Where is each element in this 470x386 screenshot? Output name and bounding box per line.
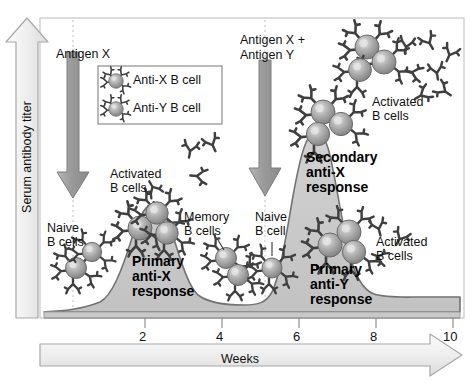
naive-b-cell-label-line2: B cell (255, 225, 286, 238)
primary-anti-y-line3: response (310, 292, 372, 307)
legend-label-anti-y: Anti-Y B cell (133, 102, 201, 115)
activated-antiy-label-line1: Activated (376, 236, 427, 249)
antigen-x-label: Antigen X (56, 48, 110, 61)
activated-secondary-label-line2: B cells (372, 110, 409, 123)
x-tick-label-6: 6 (293, 330, 300, 344)
primary-anti-y-line2: anti-Y (310, 277, 349, 292)
primary-anti-x-line3: response (132, 284, 194, 299)
activated-primary-label-line1: Activated (110, 168, 161, 181)
secondary-anti-x-line1: Secondary (306, 150, 378, 165)
y-axis-label: Serum antibody titer (20, 92, 34, 222)
naive-b-cell-label-line1: Naive (255, 211, 287, 224)
memory-b-cells-label-line1: Memory (184, 211, 229, 224)
x-tick-label-10: 10 (443, 330, 457, 344)
naive-b-cells-label-line2: B cells (47, 236, 84, 249)
secondary-anti-x-line3: response (306, 180, 368, 195)
baseline-strip (44, 312, 460, 318)
baseline-band (44, 312, 460, 318)
x-tick-label-2: 2 (139, 330, 146, 344)
figure-canvas: Serum antibody titer Antigen X Antigen X… (0, 0, 470, 386)
primary-anti-x-line2: anti-X (132, 269, 171, 284)
antigen-xy-label-line2: Antigen Y (240, 49, 294, 62)
antigen-xy-label-line1: Antigen X + (240, 34, 305, 47)
naive-b-cells-label-line1: Naive (47, 222, 79, 235)
secondary-anti-x-line2: anti-X (306, 165, 345, 180)
primary-anti-x-line1: Primary (132, 254, 184, 269)
activated-secondary-label-line1: Activated (372, 96, 423, 109)
x-tick-label-4: 4 (216, 330, 223, 344)
activated-antiy-label-line2: B cells (376, 250, 413, 263)
memory-b-cells-label-line2: B cells (184, 225, 221, 238)
legend-label-anti-x: Anti-X B cell (133, 74, 201, 87)
activated-primary-label-line2: B cells (110, 182, 147, 195)
x-tick-label-8: 8 (370, 330, 377, 344)
primary-anti-y-line1: Primary (310, 262, 362, 277)
x-axis-label: Weeks (40, 352, 440, 366)
